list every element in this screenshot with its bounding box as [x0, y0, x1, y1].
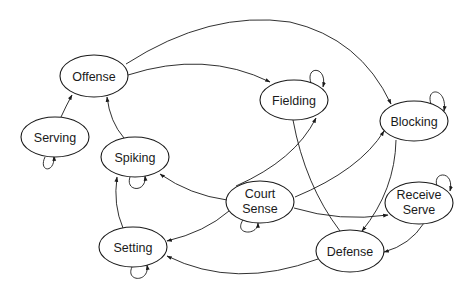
- edge-setting-to-spiking: [116, 177, 123, 228]
- node-label-line2: Serve: [403, 203, 436, 217]
- self-loop-serving: [43, 156, 54, 169]
- edge-courtsense-to-spiking: [160, 174, 227, 200]
- edge-courtsense-to-blocking: [295, 131, 384, 197]
- edge-defense-to-setting: [167, 256, 318, 274]
- edge-offense-to-blocking: [126, 20, 391, 104]
- node-label: Offense: [72, 70, 116, 84]
- node-blocking: Blocking: [380, 101, 448, 141]
- node-label: Spiking: [115, 151, 156, 165]
- edge-serving-to-offense: [61, 95, 72, 117]
- node-receive-serve: Receive Serve: [385, 182, 453, 224]
- edge-offense-to-fielding: [128, 64, 270, 82]
- node-label: Setting: [114, 241, 153, 255]
- node-fielding: Fielding: [260, 80, 328, 120]
- node-serving: Serving: [21, 117, 89, 157]
- edge-courtsense-to-fielding: [236, 118, 316, 186]
- edge-courtsense-to-receiveserve: [294, 208, 388, 217]
- node-setting: Setting: [99, 227, 167, 267]
- node-label-line2: Sense: [242, 202, 277, 216]
- edge-courtsense-to-setting: [167, 211, 229, 241]
- node-label: Blocking: [390, 115, 437, 129]
- node-court-sense: Court Sense: [226, 181, 294, 223]
- node-label: Fielding: [272, 94, 316, 108]
- node-label: Defense: [327, 245, 374, 259]
- node-defense: Defense: [316, 230, 384, 272]
- node-spiking: Spiking: [101, 137, 169, 177]
- node-offense: Offense: [60, 55, 128, 97]
- edge-spiking-to-offense: [107, 97, 124, 138]
- self-loop-spiking: [129, 176, 145, 189]
- edge-fielding-to-defense: [293, 120, 340, 231]
- node-label-line1: Court: [245, 187, 276, 201]
- state-diagram: Offense Serving Spiking Setting Court Se…: [0, 0, 473, 296]
- node-label-line1: Receive: [396, 188, 441, 202]
- nodes: Offense Serving Spiking Setting Court Se…: [21, 55, 453, 272]
- node-label: Serving: [34, 131, 76, 145]
- edge-receiveserve-to-defense: [384, 223, 424, 252]
